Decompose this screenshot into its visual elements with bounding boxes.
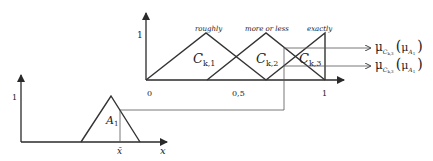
set-ck1-triangle	[146, 33, 266, 80]
top-y-tick-1: 1	[137, 30, 143, 40]
top-x-tick-0: 0	[147, 89, 152, 98]
x-bar-label: x̄	[117, 146, 122, 156]
projection-lines	[120, 48, 370, 110]
label-a1: A1	[105, 114, 118, 128]
label-ck3: Ck,3	[299, 51, 321, 68]
output-labels: μCk,3(μA1) μCk,3(μA1)	[375, 38, 423, 74]
output-mu-2: μCk,3(μA1)	[375, 56, 423, 74]
top-chart: 1 roughly more or less exactly Ck,1 Ck,2…	[137, 13, 344, 98]
x-axis-label: x	[160, 145, 166, 156]
top-x-tick-1: 1	[322, 89, 327, 98]
term-exactly: exactly	[307, 25, 333, 33]
fuzzy-diagram: 1 roughly more or less exactly Ck,1 Ck,2…	[0, 0, 433, 161]
top-x-tick-05: 0,5	[232, 89, 245, 98]
bottom-y-tick-1: 1	[12, 93, 17, 102]
term-more-or-less: more or less	[245, 25, 289, 33]
bottom-chart: 1 A1 x̄ x	[12, 75, 167, 156]
label-ck2: Ck,2	[256, 51, 278, 68]
label-ck1: Ck,1	[193, 51, 215, 68]
output-mu-1: μCk,3(μA1)	[375, 38, 423, 56]
term-roughly: roughly	[195, 25, 223, 33]
